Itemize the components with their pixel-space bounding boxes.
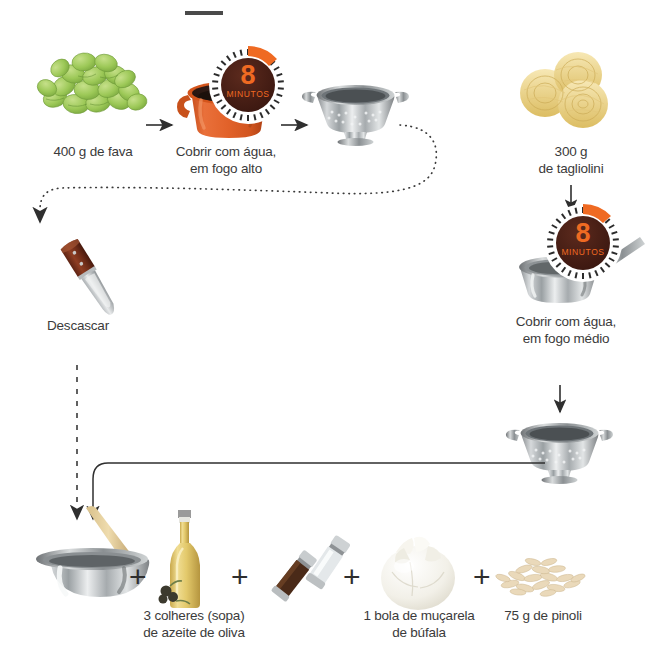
timer-2-unit: MINUTOS [545,247,621,257]
colander-pasta-icon [506,423,613,484]
pine-nuts-icon [495,557,586,597]
olive-oil-bottle-icon [159,510,201,608]
label-olive-oil: 3 colheres (sopa) de azeite de oliva [114,607,274,641]
plus-operator-3: + [343,562,361,592]
label-pot: Cobrir com água, em fogo alto [152,143,300,177]
pasta-nests-icon [520,52,608,128]
timer-2-text: 8 MINUTOS [545,220,621,257]
plus-operator-4: + [473,562,491,592]
timer-1-text: 8 MINUTOS [210,62,286,99]
label-pinoli: 75 g de pinoli [463,607,623,624]
mozzarella-ball-icon [381,537,455,610]
label-tagliolini: 300 g de tagliolini [497,143,645,177]
label-fava: 400 g de fava [13,143,173,160]
label-saucepan: Cobrir com água, em fogo médio [486,313,646,347]
timer-2-number: 8 [545,220,621,246]
timer-1-number: 8 [210,62,286,88]
solid-elbow-colander-to-bowl [93,463,545,519]
salt-pepper-grinders-icon [271,534,352,602]
colander-fava-icon [302,85,409,146]
plus-operator-1: + [129,562,147,592]
timer-1-unit: MINUTOS [210,89,286,99]
plus-operator-2: + [231,562,249,592]
recipe-infographic: 8 MINUTOS 8 MINUTOS 400 g de fava Cobrir… [0,0,650,669]
paring-knife-icon [60,238,121,319]
fava-beans-icon [35,52,149,116]
label-knife: Descascar [8,317,148,334]
